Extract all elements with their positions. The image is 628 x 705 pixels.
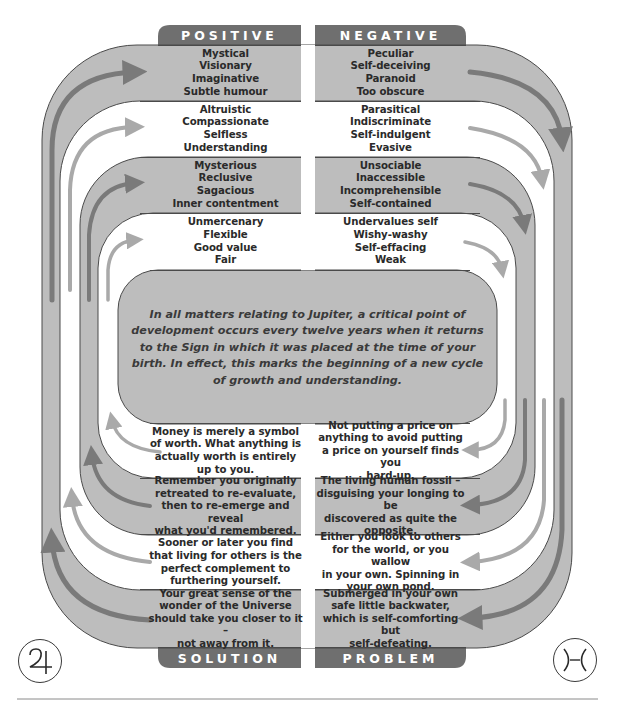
jupiter-symbol-icon [18, 639, 62, 683]
positive-row-3: Mysterious Reclusive Sagacious Inner con… [150, 157, 301, 213]
tab-problem: PROBLEM [315, 648, 466, 668]
negative-row-2: Parasitical Indiscriminate Self-indulgen… [315, 101, 466, 157]
tab-positive: POSITIVE [158, 25, 301, 45]
tab-solution: SOLUTION [158, 648, 301, 668]
negative-row-3: Unsociable Inaccessible Incomprehensible… [315, 157, 466, 213]
pisces-symbol-icon [553, 638, 597, 682]
tab-negative: NEGATIVE [315, 25, 466, 45]
problem-row-3: Either you look to others for the world,… [313, 535, 468, 590]
positive-row-1: Mystical Visionary Imaginative Subtle hu… [150, 45, 301, 101]
positive-row-2: Altruistic Compassionate Selfless Unders… [150, 101, 301, 157]
solution-row-1: Money is merely a symbol of worth. What … [148, 424, 303, 478]
solution-row-2: Remember you originally retreated to re-… [148, 478, 303, 535]
solution-row-4: Your great sense of the wonder of the Un… [148, 590, 303, 648]
positive-row-4: Unmercenary Flexible Good value Fair [150, 213, 301, 270]
problem-row-4: Submerged in your own safe little backwa… [313, 590, 468, 648]
negative-row-4: Undervalues self Wishy-washy Self-effaci… [315, 213, 466, 270]
center-statement: In all matters relating to Jupiter, a cr… [130, 278, 485, 418]
problem-row-2: The living human fossil – disguising you… [313, 478, 468, 535]
negative-row-1: Peculiar Self-deceiving Paranoid Too obs… [315, 45, 466, 101]
solution-row-3: Sooner or later you find that living for… [148, 535, 303, 590]
problem-row-1: Not putting a price on anything to avoid… [313, 424, 468, 478]
